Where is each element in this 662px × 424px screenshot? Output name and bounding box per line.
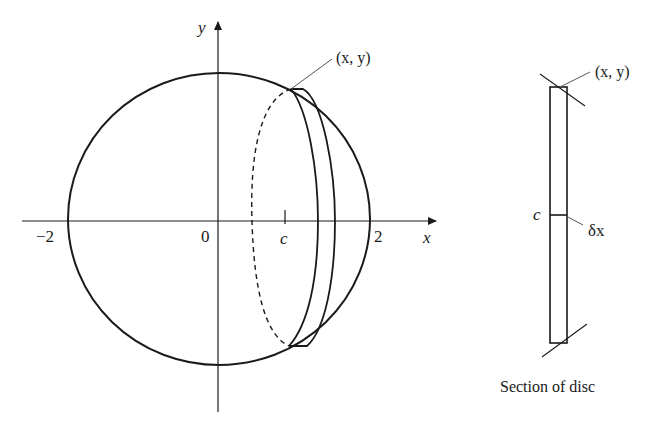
- tick-label-2: 2: [374, 227, 383, 246]
- disc-back-edge: [289, 89, 335, 346]
- section-caption: Section of disc: [500, 378, 595, 395]
- section-thickness-leader: [566, 216, 583, 225]
- sphere-disc-diagram: y x 0 −2 2 c (x, y) (x, y) c δx Section …: [0, 0, 662, 424]
- tick-label-neg2: −2: [36, 227, 54, 246]
- circle-radius-2: [68, 73, 370, 365]
- point-label: (x, y): [336, 49, 371, 67]
- section-point-leader: [560, 72, 590, 87]
- section-center-label: c: [533, 205, 541, 224]
- section-point-label: (x, y): [595, 63, 630, 81]
- section-top-tangent: [540, 74, 585, 106]
- disc-front-edge: [289, 89, 318, 346]
- y-axis-label: y: [196, 18, 206, 37]
- point-leader-line: [291, 59, 332, 89]
- x-axis-label: x: [422, 228, 431, 247]
- origin-label: 0: [201, 227, 210, 246]
- tick-label-c: c: [280, 229, 288, 248]
- section-thickness-label: δx: [588, 221, 605, 240]
- section-bottom-tangent: [542, 324, 587, 357]
